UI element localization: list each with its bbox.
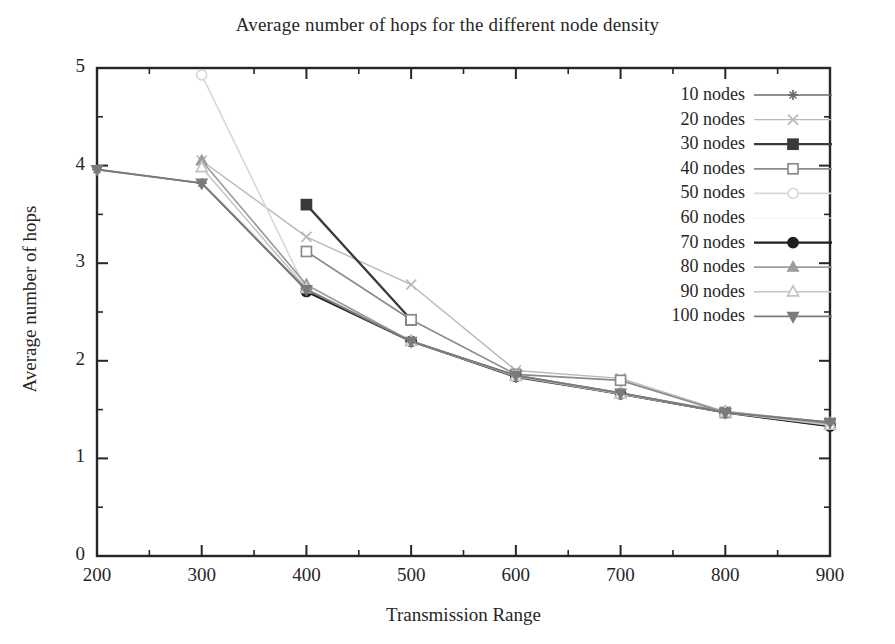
legend-label-40-nodes: 40 nodes: [625, 158, 745, 179]
legend-label-90-nodes: 90 nodes: [625, 281, 745, 302]
legend-label-60-nodes: 60 nodes: [625, 207, 745, 228]
x-tick-300: 300: [172, 564, 232, 586]
x-tick-400: 400: [276, 564, 336, 586]
series-70-nodes: [301, 287, 835, 432]
y-tick-5: 5: [51, 55, 85, 77]
y-tick-4: 4: [51, 153, 85, 175]
legend-sample-50-nodes: [754, 188, 832, 198]
legend-label-80-nodes: 80 nodes: [625, 256, 745, 277]
legend-label-50-nodes: 50 nodes: [625, 182, 745, 203]
y-tick-2: 2: [51, 348, 85, 370]
legend-sample-90-nodes: [754, 286, 832, 296]
plot-area: [0, 0, 895, 644]
legend-label-70-nodes: 70 nodes: [625, 232, 745, 253]
chart-container: Average number of hops for the different…: [0, 0, 895, 644]
series-40-nodes: [301, 246, 835, 429]
x-tick-800: 800: [695, 564, 755, 586]
legend-sample-10-nodes: [754, 90, 832, 100]
y-tick-0: 0: [51, 543, 85, 565]
legend-sample-30-nodes: [754, 139, 832, 149]
x-tick-500: 500: [381, 564, 441, 586]
series-30-nodes: [301, 200, 416, 325]
legend-label-10-nodes: 10 nodes: [625, 84, 745, 105]
legend-sample-100-nodes: [754, 312, 832, 322]
x-tick-900: 900: [800, 564, 860, 586]
legend-label-20-nodes: 20 nodes: [625, 109, 745, 130]
y-tick-1: 1: [51, 445, 85, 467]
x-tick-600: 600: [486, 564, 546, 586]
legend-sample-20-nodes: [754, 115, 832, 125]
legend-sample-lines: [754, 90, 832, 322]
legend-sample-70-nodes: [754, 238, 832, 248]
legend-label-100-nodes: 100 nodes: [625, 305, 745, 326]
legend-label-30-nodes: 30 nodes: [625, 133, 745, 154]
y-tick-3: 3: [51, 250, 85, 272]
x-tick-700: 700: [591, 564, 651, 586]
x-tick-200: 200: [67, 564, 127, 586]
